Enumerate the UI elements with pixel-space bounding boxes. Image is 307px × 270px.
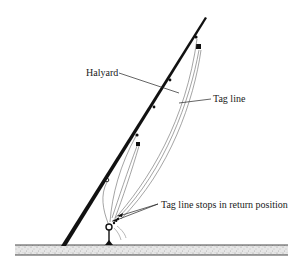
tag-line-stops-label: Tag line stops in return position <box>161 200 288 210</box>
arrowheads <box>112 213 123 222</box>
tag-line-label: Tag line <box>213 94 245 104</box>
halyard-label: Halyard <box>86 68 118 78</box>
flagpole-halyard-diagram <box>0 0 307 270</box>
ground <box>15 245 288 255</box>
